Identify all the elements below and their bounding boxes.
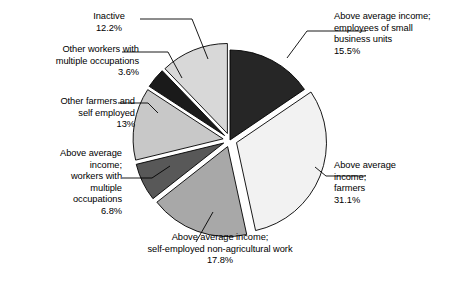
pie-chart-figure: Above average income; employees of small…: [0, 0, 461, 281]
slice-label-inactive: Inactive 12.2%: [66, 11, 152, 34]
pie-slices: [133, 44, 326, 237]
slice-label-workers-multiple: Above average income; workers with multi…: [2, 148, 122, 218]
slice-label-farmers: Above average income; farmers 31.1%: [334, 160, 458, 206]
slice-label-small-business: Above average income; employees of small…: [334, 11, 458, 57]
slice-label-other-farmers: Other farmers and self employed 13%: [2, 96, 135, 131]
slice-label-other-workers-multiple: Other workers with multiple occupations …: [2, 44, 139, 79]
slice-label-self-employed-nonagri: Above average income; self-employed non-…: [104, 232, 336, 267]
